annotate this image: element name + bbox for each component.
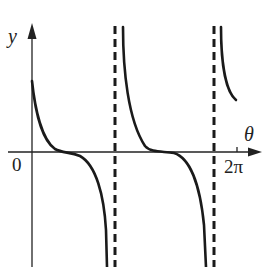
curve-branch-1 bbox=[32, 81, 107, 267]
y-axis bbox=[28, 23, 37, 267]
origin-label: 0 bbox=[12, 155, 22, 174]
curve-branch-3 bbox=[221, 27, 236, 100]
x-axis-arrow-icon bbox=[248, 148, 262, 157]
x-axis-label: θ bbox=[244, 124, 254, 144]
function-graph bbox=[0, 0, 269, 267]
curve-branch-2 bbox=[123, 27, 206, 267]
x-tick-label-2pi: 2π bbox=[224, 157, 243, 176]
y-axis-arrow-icon bbox=[28, 23, 37, 39]
y-axis-label: y bbox=[8, 26, 17, 46]
